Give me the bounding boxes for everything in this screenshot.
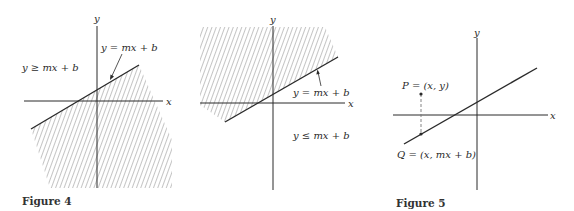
- figure4-caption: Figure 4: [22, 195, 72, 207]
- figure4-left-panel: y x y = mx + b y ≥ mx + b: [21, 13, 172, 188]
- hatched-region-below: [31, 65, 172, 188]
- x-axis-label: x: [166, 96, 172, 107]
- point-p-label: P = (x, y): [401, 80, 449, 91]
- y-axis-label: y: [473, 27, 480, 38]
- point-q: [419, 132, 422, 135]
- figure4-right-panel: y x y = mx + b y ≤ mx + b: [200, 14, 354, 190]
- line-label: y = mx + b: [292, 87, 350, 98]
- y-axis-label: y: [269, 14, 276, 25]
- x-axis-label: x: [550, 110, 556, 121]
- point-q-label: Q = (x, mx + b): [397, 149, 476, 160]
- point-p: [419, 92, 422, 95]
- arrow-icon: [316, 70, 321, 87]
- hatched-region-above: [200, 27, 338, 122]
- figure-canvas: y x y = mx + b y ≥ mx + b y x y = mx + b…: [0, 0, 574, 211]
- region-label: y ≥ mx + b: [21, 62, 79, 73]
- figure5-panel: y x P = (x, y) Q = (x, mx + b): [393, 27, 556, 190]
- line-label: y = mx + b: [100, 42, 158, 53]
- region-label: y ≤ mx + b: [292, 130, 350, 141]
- x-axis-label: x: [348, 98, 354, 109]
- figure5-caption: Figure 5: [396, 197, 446, 209]
- y-axis-label: y: [93, 13, 100, 24]
